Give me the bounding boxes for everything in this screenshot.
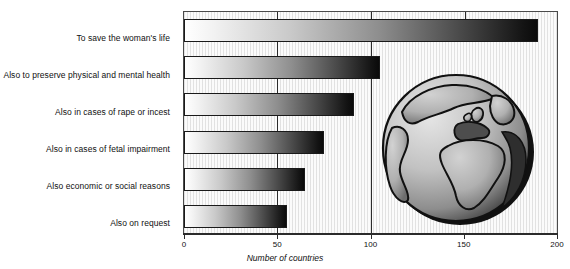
bar-3 <box>184 131 324 154</box>
bar-2 <box>184 93 354 116</box>
x-tick-label-100: 100 <box>364 240 377 249</box>
x-tick-50 <box>277 234 278 239</box>
x-tick-200 <box>557 234 558 239</box>
bar-4 <box>184 168 305 191</box>
tick-top-150 <box>465 12 466 19</box>
bar-5 <box>184 205 287 228</box>
x-tick-label-0: 0 <box>182 240 186 249</box>
category-label-3: Also in cases of fetal impairment <box>46 144 170 154</box>
category-label-4: Also economic or social reasons <box>47 181 170 191</box>
x-tick-0 <box>184 234 185 239</box>
x-axis-title: Number of countries <box>0 253 570 263</box>
bar-0 <box>184 19 538 42</box>
category-label-2: Also in cases of rape or incest <box>55 107 170 117</box>
x-tick-100 <box>371 234 372 239</box>
x-tick-label-200: 200 <box>550 240 563 249</box>
x-tick-label-150: 150 <box>457 240 470 249</box>
x-tick-label-50: 50 <box>273 240 282 249</box>
category-label-column: To save the woman's life Also to preserv… <box>0 10 176 235</box>
bar-1 <box>184 56 380 79</box>
x-tick-150 <box>464 234 465 239</box>
bar-chart: To save the woman's life Also to preserv… <box>0 0 570 269</box>
category-label-5: Also on request <box>110 218 170 228</box>
gridline-50 <box>277 12 278 233</box>
globe-icon <box>374 68 538 228</box>
category-label-0: To save the woman's life <box>76 33 170 43</box>
gridline-100 <box>371 12 372 233</box>
category-label-1: Also to preserve physical and mental hea… <box>3 70 170 80</box>
